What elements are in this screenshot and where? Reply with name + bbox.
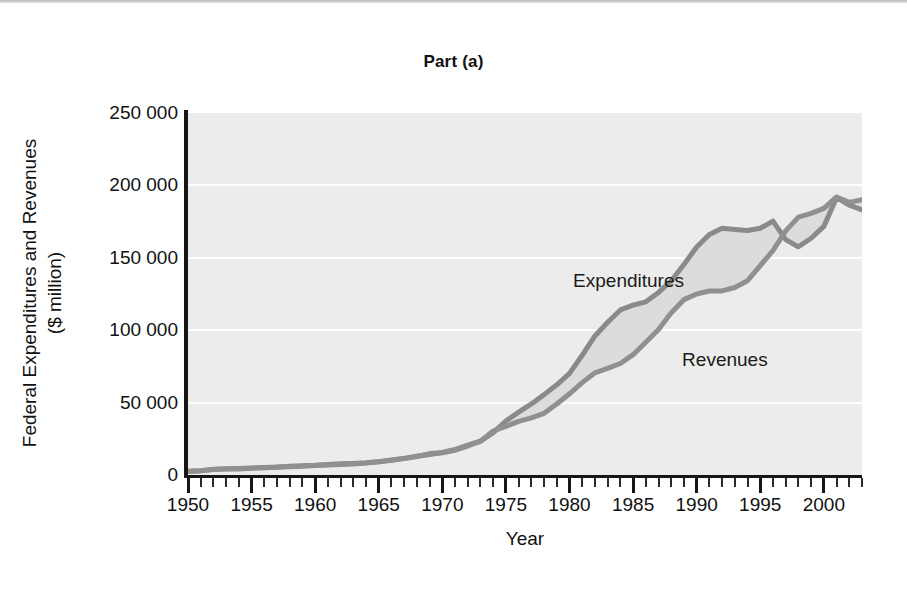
x-tick-minor xyxy=(747,478,749,487)
x-tick-minor xyxy=(581,478,583,487)
x-tick-minor xyxy=(797,478,799,487)
x-tick-label: 1950 xyxy=(167,494,209,516)
x-tick-minor xyxy=(708,478,710,487)
plot-area: Expenditures Revenues xyxy=(188,113,862,475)
x-tick-minor xyxy=(390,478,392,487)
data-series-svg xyxy=(188,113,862,475)
x-tick-minor xyxy=(619,478,621,487)
x-tick-minor xyxy=(492,478,494,487)
x-tick-major xyxy=(187,478,190,493)
x-tick-minor xyxy=(848,478,850,487)
x-tick-major xyxy=(441,478,444,493)
x-tick-major xyxy=(632,478,635,493)
x-tick-minor xyxy=(467,478,469,487)
x-tick-minor xyxy=(289,478,291,487)
x-tick-minor xyxy=(352,478,354,487)
y-tick-label: 150 000 xyxy=(72,247,178,269)
x-tick-label: 2000 xyxy=(803,494,845,516)
x-tick-major xyxy=(504,478,507,493)
x-tick-minor xyxy=(785,478,787,487)
x-tick-minor xyxy=(225,478,227,487)
x-tick-minor xyxy=(365,478,367,487)
x-tick-minor xyxy=(340,478,342,487)
y-tick-label: 0 xyxy=(72,464,178,486)
x-tick-minor xyxy=(543,478,545,487)
x-tick-minor xyxy=(200,478,202,487)
x-tick-major xyxy=(822,478,825,493)
expenditures-annotation-label: Expenditures xyxy=(573,270,684,292)
x-axis-title: Year xyxy=(188,528,862,550)
x-tick-minor xyxy=(772,478,774,487)
x-tick-minor xyxy=(721,478,723,487)
y-axis-title-line2: ($ million) xyxy=(42,138,67,446)
x-tick-major xyxy=(377,478,380,493)
x-tick-minor xyxy=(454,478,456,487)
x-tick-label: 1990 xyxy=(676,494,718,516)
x-tick-label: 1970 xyxy=(421,494,463,516)
x-tick-minor xyxy=(518,478,520,487)
x-tick-minor xyxy=(212,478,214,487)
x-tick-label: 1955 xyxy=(230,494,272,516)
y-tick-label: 200 000 xyxy=(72,174,178,196)
x-tick-label: 1965 xyxy=(358,494,400,516)
y-tick-label: 100 000 xyxy=(72,319,178,341)
x-tick-minor xyxy=(301,478,303,487)
x-tick-major xyxy=(568,478,571,493)
x-tick-major xyxy=(759,478,762,493)
x-tick-minor xyxy=(836,478,838,487)
x-tick-minor xyxy=(607,478,609,487)
x-tick-major xyxy=(695,478,698,493)
x-tick-minor xyxy=(238,478,240,487)
x-tick-minor xyxy=(276,478,278,487)
x-tick-minor xyxy=(530,478,532,487)
x-tick-minor xyxy=(658,478,660,487)
x-tick-label: 1985 xyxy=(612,494,654,516)
x-tick-label: 1980 xyxy=(548,494,590,516)
x-tick-minor xyxy=(734,478,736,487)
revenues-annotation-label: Revenues xyxy=(682,349,768,371)
x-tick-minor xyxy=(263,478,265,487)
fill-between-band xyxy=(188,197,862,472)
x-tick-minor xyxy=(429,478,431,487)
x-tick-minor xyxy=(556,478,558,487)
x-tick-minor xyxy=(683,478,685,487)
x-tick-minor xyxy=(327,478,329,487)
x-tick-label: 1995 xyxy=(739,494,781,516)
y-tick-label-group: 050 000100 000150 000200 000250 000 xyxy=(72,0,178,602)
x-tick-minor xyxy=(670,478,672,487)
y-tick-label: 250 000 xyxy=(72,102,178,124)
x-tick-minor xyxy=(861,478,863,487)
x-tick-major xyxy=(250,478,253,493)
y-axis-title-line1: Federal Expenditures and Revenues xyxy=(17,138,42,446)
y-tick-label: 50 000 xyxy=(72,392,178,414)
x-tick-label: 1975 xyxy=(485,494,527,516)
x-tick-label: 1960 xyxy=(294,494,336,516)
x-tick-minor xyxy=(645,478,647,487)
y-axis-title: Federal Expenditures and Revenues ($ mil… xyxy=(14,105,70,480)
figure-container: Part (a) Federal Expenditures and Revenu… xyxy=(0,0,907,602)
x-tick-minor xyxy=(810,478,812,487)
x-tick-minor xyxy=(403,478,405,487)
x-tick-minor xyxy=(416,478,418,487)
x-tick-minor xyxy=(479,478,481,487)
x-tick-minor xyxy=(594,478,596,487)
x-tick-major xyxy=(314,478,317,493)
